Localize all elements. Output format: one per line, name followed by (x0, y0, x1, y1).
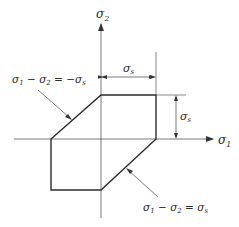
sigma2-axis-label: σ2 (96, 7, 109, 23)
annotation-lower-right: σ1 − σ2 = σs (126, 168, 208, 215)
vertical-dimension: σs (174, 95, 192, 139)
annotation-upper-left: σ1 − σ2 = −σs (12, 73, 86, 120)
horizontal-dimension: σs (101, 62, 156, 79)
horizontal-dimension-label: σs (123, 62, 135, 76)
yield-hexagon (51, 95, 156, 190)
annotation-lower-right-text: σ1 − σ2 = σs (143, 201, 208, 215)
annotation-upper-left-text: σ1 − σ2 = −σs (12, 73, 86, 87)
sigma1-axis-label: σ1 (218, 133, 231, 149)
tresca-diagram: σs σs σ2 σ1 σ1 − σ2 = −σs σ1 − σ2 = σs (0, 0, 239, 227)
vertical-dimension-label: σs (180, 110, 192, 124)
